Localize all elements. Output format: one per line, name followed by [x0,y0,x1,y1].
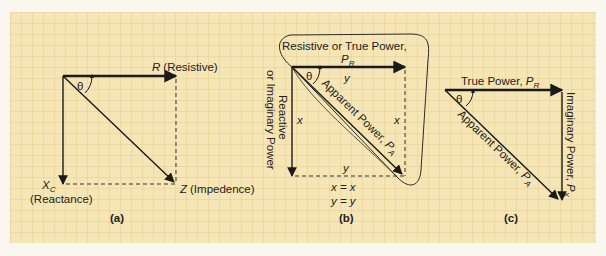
equation-y: y = y [330,195,357,207]
imaginary-power-label: or Imaginary Power [265,70,277,170]
caption-a: (a) [110,212,124,224]
bubble-title: Resistive or True Power, [282,40,407,52]
theta-label: θ [306,70,312,82]
theta-label: θ [456,93,462,105]
z-label: Z(Impedence) [179,183,255,195]
caption-c: (c) [504,212,518,224]
reactance-label: (Reactance) [30,193,93,205]
caption-b: (b) [339,212,354,224]
phasor-diagrams-figure: θ R(Resistive) XC (Reactance) Z(Impedenc… [0,0,606,256]
reactive-label: Reactive [277,95,289,140]
equation-x: x = x [330,181,357,193]
theta-label: θ [77,80,83,92]
